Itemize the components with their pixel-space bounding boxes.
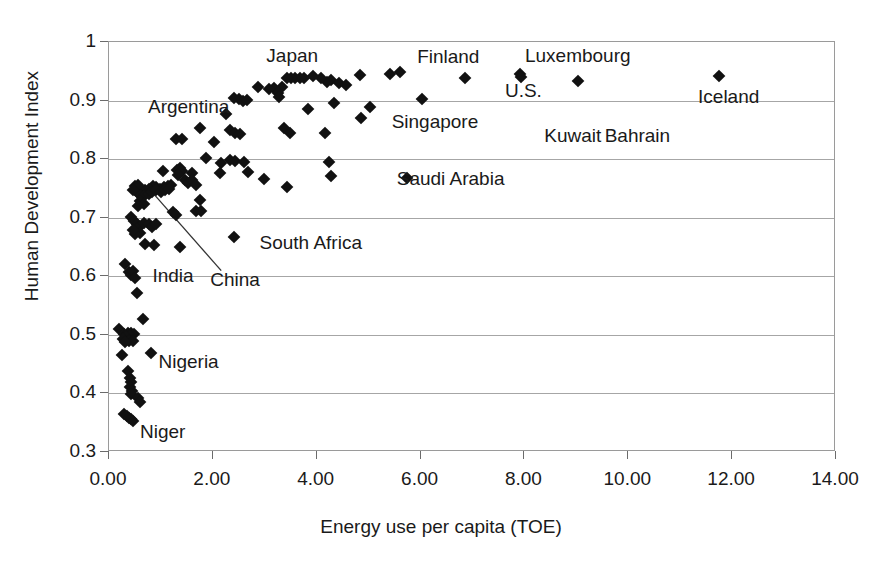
x-tick-mark [420, 451, 421, 459]
x-axis-title: Energy use per capita (TOE) [0, 516, 882, 538]
annotation-label: U.S. [505, 81, 542, 100]
annotation-label: Nigeria [158, 352, 218, 371]
x-tick-label: 0.00 [53, 469, 163, 488]
annotation-label: Bahrain [605, 126, 671, 145]
x-tick-label: 12.00 [676, 469, 786, 488]
annotation-label: South Africa [260, 233, 362, 252]
y-tick-label: 0.3 [12, 441, 96, 460]
annotation-label: Singapore [392, 112, 479, 131]
gridline [109, 393, 834, 394]
annotation-label: Saudi Arabia [397, 169, 505, 188]
annotation-label: Kuwait [544, 126, 601, 145]
x-tick-mark [316, 451, 317, 459]
annotation-label: India [152, 266, 193, 285]
annotation-label: Niger [140, 422, 185, 441]
annotation-label: China [210, 270, 260, 289]
gridline [109, 335, 834, 336]
y-tick-label: 0.4 [12, 382, 96, 401]
x-tick-label: 6.00 [365, 469, 475, 488]
y-tick-mark [100, 275, 108, 276]
gridline [109, 218, 834, 219]
x-tick-mark [523, 451, 524, 459]
y-axis-title: Human Development Index [21, 36, 43, 336]
x-tick-label: 8.00 [468, 469, 578, 488]
x-tick-mark [835, 451, 836, 459]
x-tick-mark [108, 451, 109, 459]
annotation-label: Japan [266, 46, 318, 65]
annotation-label: Luxembourg [525, 46, 631, 65]
y-tick-mark [100, 451, 108, 452]
y-tick-mark [100, 334, 108, 335]
x-tick-mark [731, 451, 732, 459]
x-tick-mark [627, 451, 628, 459]
hdi-energy-scatter-figure: 0.30.40.50.60.70.80.91 0.002.004.006.008… [0, 0, 882, 561]
annotation-label: Argentina [148, 97, 229, 116]
annotation-label: Iceland [698, 87, 759, 106]
y-tick-mark [100, 158, 108, 159]
x-tick-label: 14.00 [780, 469, 882, 488]
x-tick-label: 2.00 [157, 469, 267, 488]
x-tick-label: 10.00 [572, 469, 682, 488]
x-tick-label: 4.00 [261, 469, 371, 488]
y-tick-mark [100, 41, 108, 42]
annotation-label: Finland [417, 47, 479, 66]
y-tick-mark [100, 217, 108, 218]
y-tick-mark [100, 392, 108, 393]
x-tick-mark [212, 451, 213, 459]
y-tick-mark [100, 100, 108, 101]
